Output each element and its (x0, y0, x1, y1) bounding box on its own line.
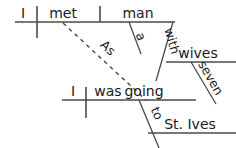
label-article-a: a (133, 30, 150, 43)
label-verb-main: met (49, 5, 77, 21)
label-verb-sub-aux: was (94, 83, 121, 99)
sentence-diagram: I met man a with wives seven As I was go… (0, 0, 236, 148)
label-obj-wives: wives (178, 45, 218, 61)
diagram-canvas: I met man a with wives seven As I was go… (0, 0, 236, 148)
label-obj-stives: St. Ives (164, 116, 216, 132)
label-subject-sub: I (71, 83, 75, 99)
label-verb-sub-main: going (124, 83, 163, 99)
label-connector-as: As (97, 37, 118, 58)
label-subject-main: I (21, 5, 25, 21)
label-object-main: man (122, 5, 153, 21)
